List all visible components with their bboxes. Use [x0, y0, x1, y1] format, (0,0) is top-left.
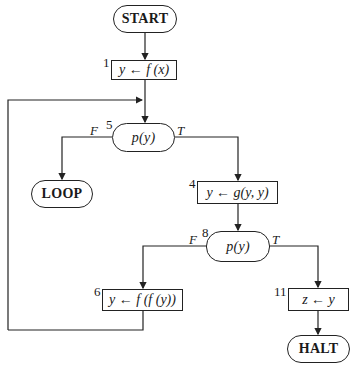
node-5-number: 5	[106, 118, 113, 131]
node-1-number: 1	[103, 56, 110, 69]
start-label: START	[122, 11, 169, 27]
decision-node-5: p(y)	[112, 123, 175, 152]
node-5-true-label: T	[177, 124, 184, 137]
node-6-number: 6	[94, 285, 101, 298]
assign-node-1: y ← f (x)	[111, 60, 177, 80]
node-6-text: y ← f (f (y))	[109, 292, 176, 308]
node-4-text: y ← g(y, y)	[206, 185, 268, 201]
edge-8-false-to-6	[143, 246, 206, 288]
node-8-false-label: F	[189, 233, 197, 246]
edge-5-true-to-4	[175, 137, 238, 180]
start-terminal: START	[113, 5, 177, 33]
edge-5-false-to-loop	[62, 137, 112, 179]
loop-terminal: LOOP	[31, 180, 93, 208]
assign-node-4: y ← g(y, y)	[197, 181, 278, 204]
node-8-true-label: T	[272, 233, 279, 246]
decision-node-8: p(y)	[206, 231, 270, 262]
halt-label: HALT	[299, 341, 339, 357]
edge-8-true-to-11	[270, 246, 318, 287]
edge-6-to-loopback	[8, 311, 143, 330]
node-8-text: p(y)	[226, 239, 250, 255]
node-1-text: y ← f (x)	[119, 62, 169, 78]
node-4-number: 4	[189, 177, 196, 190]
assign-node-11: z ← y	[288, 288, 349, 311]
node-11-number: 11	[274, 285, 287, 298]
node-11-text: z ← y	[302, 292, 335, 308]
loop-label: LOOP	[42, 186, 83, 202]
node-5-text: p(y)	[132, 130, 156, 146]
node-5-false-label: F	[90, 124, 98, 137]
halt-terminal: HALT	[287, 335, 350, 363]
assign-node-6: y ← f (f (y))	[102, 289, 183, 311]
